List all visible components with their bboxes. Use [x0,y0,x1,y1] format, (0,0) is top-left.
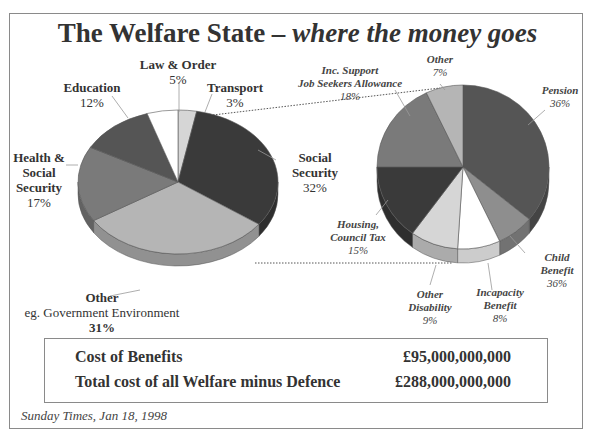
summary-box: Cost of Benefits £95,000,000,000 Total c… [44,338,548,403]
label-social-security: Social Security 32% [280,150,350,195]
label-name-2: Disability [395,301,465,314]
label-other-right: Other 7% [410,53,470,79]
label-name: Education [52,80,132,95]
label-name-3: Security [8,180,70,195]
label-pct: 3% [195,95,275,110]
source-citation: Sunday Times, Jan 18, 1998 [21,408,167,424]
label-name: Other [410,53,470,66]
label-name-1: Social [280,150,350,165]
label-name-2: Council Tax [318,231,398,244]
label-child-benefit: Child Benefit 36% [532,251,582,290]
label-health-social-security: Health & Social Security 17% [8,150,70,210]
right-pie [377,85,549,263]
summary-row-benefits: Cost of Benefits £95,000,000,000 [75,348,511,366]
summary-label: Cost of Benefits [75,348,183,365]
label-pct: 36% [535,97,585,110]
summary-value: £95,000,000,000 [403,348,511,366]
label-education: Education 12% [52,80,132,110]
label-name-1: Housing, [318,218,398,231]
label-other-left: Other eg. Government Environment 31% [12,290,192,335]
label-detail: eg. Government Environment [12,305,192,320]
label-name-1: Child [532,251,582,264]
label-name: Other [12,290,192,305]
label-inc-support: Inc. Support Job Seekers Allowance 18% [285,64,415,103]
label-name: Pension [535,84,585,97]
label-name: Law & Order [128,57,228,72]
label-name: Transport [195,80,275,95]
label-name-2: Social [8,165,70,180]
label-pct: 12% [52,95,132,110]
label-pct: 18% [285,90,415,103]
label-name-1: Incapacity [465,286,535,299]
label-name-1: Other [395,288,465,301]
label-transport: Transport 3% [195,80,275,110]
summary-value: £288,000,000,000 [395,373,511,391]
label-pct: 7% [410,66,470,79]
label-name-2: Benefit [465,299,535,312]
summary-label: Total cost of all Welfare minus Defence [75,373,340,390]
summary-row-total: Total cost of all Welfare minus Defence … [75,373,511,391]
label-pct: 9% [395,314,465,327]
label-pct: 8% [465,312,535,325]
label-name-2: Security [280,165,350,180]
label-pct: 36% [532,277,582,290]
label-pct: 15% [318,244,398,257]
label-incapacity-benefit: Incapacity Benefit 8% [465,286,535,325]
label-name-1: Health & [8,150,70,165]
label-pension: Pension 36% [535,84,585,110]
label-pct: 32% [280,180,350,195]
label-pct: 31% [12,320,192,335]
label-name-2: Job Seekers Allowance [285,77,415,90]
label-other-disability: Other Disability 9% [395,288,465,327]
label-name-1: Inc. Support [285,64,415,77]
label-pct: 17% [8,195,70,210]
label-housing: Housing, Council Tax 15% [318,218,398,257]
left-pie [78,110,278,266]
label-name-2: Benefit [532,264,582,277]
